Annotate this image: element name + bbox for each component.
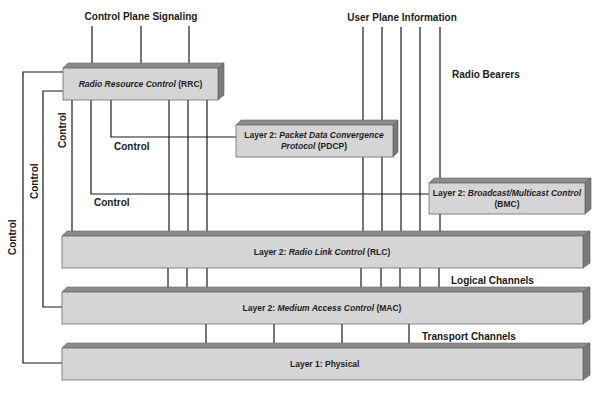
- mac-label: Layer 2: Medium Access Control (MAC): [243, 303, 402, 313]
- logical-channels-label: Logical Channels: [451, 275, 534, 286]
- rlc-control-label: Control: [57, 112, 68, 148]
- protocol-stack-diagram: Radio Resource Control (RRC) Layer 2: Pa…: [0, 0, 602, 393]
- radio-bearers-label: Radio Bearers: [452, 69, 520, 80]
- bmc-block: Layer 2: Broadcast/Multicast Control (BM…: [429, 178, 591, 214]
- control-plane-signaling-label: Control Plane Signaling: [85, 11, 198, 22]
- pdcp-label-line2: Protocol (PDCP): [281, 141, 347, 151]
- user-plane-information-label: User Plane Information: [347, 12, 456, 23]
- mac-block: Layer 2: Medium Access Control (MAC): [62, 287, 590, 324]
- rlc-label: Layer 2: Radio Link Control (RLC): [254, 247, 391, 257]
- rlc-block: Layer 2: Radio Link Control (RLC): [62, 231, 590, 268]
- rrc-block: Radio Resource Control (RRC): [63, 63, 224, 100]
- bmc-label-line2: (BMC): [494, 199, 519, 209]
- pdcp-block: Layer 2: Packet Data Convergence Protoco…: [236, 120, 398, 157]
- pdcp-control-label: Control: [114, 141, 150, 152]
- pdcp-label-line1: Layer 2: Packet Data Convergence: [244, 130, 384, 140]
- physical-block: Layer 1: Physical: [62, 343, 590, 380]
- bmc-control-label: Control: [94, 197, 130, 208]
- pdcp-control-line: [111, 100, 236, 137]
- rrc-label: Radio Resource Control (RRC): [79, 79, 203, 89]
- physical-control-label: Control: [7, 219, 18, 255]
- physical-label: Layer 1: Physical: [290, 359, 359, 369]
- bmc-label-line1: Layer 2: Broadcast/Multicast Control: [433, 188, 582, 198]
- transport-channels-label: Transport Channels: [422, 331, 516, 342]
- mac-control-label: Control: [29, 163, 40, 199]
